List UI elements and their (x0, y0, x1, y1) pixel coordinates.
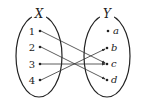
arrow-2-to-d (41, 47, 105, 79)
domain-element-1: 1 (29, 26, 35, 37)
domain-element-2: 2 (29, 42, 35, 53)
codomain-element-d: d (111, 74, 117, 85)
arrow-4-to-b (41, 49, 105, 80)
arrow-1-to-c (41, 31, 105, 63)
codomain-element-c: c (111, 58, 117, 69)
domain-element-3: 3 (29, 59, 35, 70)
set-y-label: Y (103, 7, 112, 21)
mapping-diagram: X Y 1 2 3 4 a b c d (0, 0, 141, 109)
set-x-label: X (34, 7, 44, 21)
element-dots (39, 30, 110, 82)
set-x-ellipse (16, 15, 62, 97)
codomain-element-a: a (113, 25, 119, 36)
codomain-element-b: b (111, 42, 117, 53)
mapping-arrows (41, 31, 105, 80)
domain-element-4: 4 (29, 75, 35, 86)
